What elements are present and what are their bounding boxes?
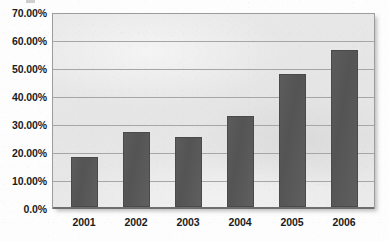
bar-2006[interactable] bbox=[331, 50, 358, 207]
x-axis-tick-label-2001: 2001 bbox=[73, 216, 96, 228]
bar-chart-figure: 70.00% 60.00% 50.00% 40.00% 30.00% 20.00… bbox=[0, 0, 389, 241]
bar-2002[interactable] bbox=[123, 132, 150, 207]
y-axis-tick-label: 10.00% bbox=[12, 175, 47, 187]
x-axis: 2001 2002 2003 2004 2005 2006 bbox=[52, 213, 375, 235]
x-axis-tick-label-2004: 2004 bbox=[229, 216, 252, 228]
y-axis-tick-label: 70.00% bbox=[12, 7, 47, 19]
bars-layer bbox=[53, 14, 374, 208]
x-axis-tick-label-2006: 2006 bbox=[333, 216, 356, 228]
y-axis-tick-label: 20.00% bbox=[12, 147, 47, 159]
x-axis-tick-label-2003: 2003 bbox=[177, 216, 200, 228]
y-axis: 70.00% 60.00% 50.00% 40.00% 30.00% 20.00… bbox=[0, 0, 52, 241]
bar-2003[interactable] bbox=[175, 137, 202, 207]
plot-area bbox=[52, 13, 375, 209]
y-axis-tick-label: 30.00% bbox=[12, 119, 47, 131]
y-axis-tick-label: 60.00% bbox=[12, 35, 47, 47]
bar-2001[interactable] bbox=[71, 157, 98, 207]
x-axis-tick-label-2002: 2002 bbox=[125, 216, 148, 228]
bar-2005[interactable] bbox=[279, 74, 306, 207]
y-axis-tick-label: 50.00% bbox=[12, 63, 47, 75]
y-axis-tick-label: 0.0% bbox=[23, 203, 47, 215]
scan-crop-artifact bbox=[26, 0, 35, 3]
bar-2004[interactable] bbox=[227, 116, 254, 207]
x-axis-tick-label-2005: 2005 bbox=[281, 216, 304, 228]
y-axis-tick-label: 40.00% bbox=[12, 91, 47, 103]
